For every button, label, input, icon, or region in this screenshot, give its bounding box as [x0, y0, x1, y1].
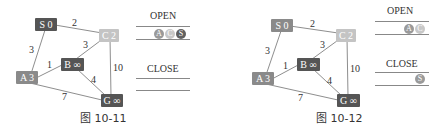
node-s: S 0: [35, 18, 57, 31]
figure-10-11: S 0 C 2 B ∞ A 3 G ∞ 2 3 3 1 10 4 7 图 10-…: [0, 0, 220, 137]
open-item-c: C: [165, 29, 175, 39]
weight-a-g: 7: [298, 93, 303, 103]
node-g: G ∞: [337, 94, 360, 107]
node-b: B ∞: [297, 58, 320, 71]
weight-b-g: 4: [91, 75, 96, 85]
edge-c-g: [347, 38, 348, 96]
weight-s-a: 3: [29, 45, 34, 55]
node-g: G ∞: [101, 94, 123, 107]
figure-caption: 图 10-11: [80, 113, 126, 125]
weight-c-g: 10: [350, 64, 360, 74]
node-s: S 0: [271, 19, 293, 32]
open-list-top-line: [136, 26, 190, 27]
close-list-top-line: [136, 78, 190, 79]
weight-b-c: 3: [320, 40, 325, 50]
weight-a-b: 1: [47, 60, 52, 70]
open-list-bottom-line: [375, 34, 429, 35]
open-list-title: OPEN: [150, 11, 176, 21]
open-list-top-line: [375, 21, 429, 22]
close-list-title: CLOSE: [147, 64, 179, 74]
node-a: A 3: [252, 72, 274, 85]
weight-c-g: 10: [113, 63, 123, 73]
open-item-s: S: [176, 29, 186, 39]
close-list-top-line: [375, 72, 429, 73]
open-list-title: OPEN: [387, 6, 413, 16]
figure-caption: 图 10-12: [316, 113, 362, 125]
open-item-a: A: [154, 29, 164, 39]
open-item-a: A: [404, 24, 414, 34]
open-item-c: C: [415, 24, 425, 34]
node-c: C 2: [99, 29, 119, 42]
figure-10-12: S 0 C 2 B ∞ A 3 G ∞ 2 3 3 1 10 4 7 图 10-…: [220, 0, 440, 137]
weight-b-c: 3: [83, 40, 88, 50]
open-list-bottom-line: [136, 39, 190, 40]
node-a: A 3: [16, 71, 38, 84]
weight-s-c: 2: [310, 19, 315, 29]
edge-c-g: [110, 38, 111, 96]
node-b: B ∞: [61, 58, 84, 71]
weight-a-g: 7: [62, 92, 67, 102]
close-list-bottom-line: [375, 85, 429, 86]
close-list-title: CLOSE: [386, 59, 418, 69]
close-item-s: S: [415, 74, 425, 84]
weight-a-b: 1: [283, 61, 288, 71]
weight-s-a: 3: [265, 46, 270, 56]
weight-s-c: 2: [72, 18, 77, 28]
weight-b-g: 4: [327, 76, 332, 86]
node-c: C 2: [336, 29, 356, 42]
close-list-bottom-line: [136, 90, 190, 91]
